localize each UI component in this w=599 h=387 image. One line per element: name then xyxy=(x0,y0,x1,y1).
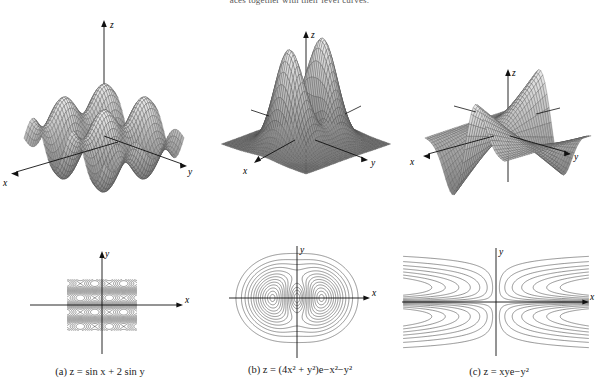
surface-plot-c: z x y xyxy=(398,30,599,200)
axis-label-y-a: y xyxy=(187,167,193,177)
axis-label-x-a: x xyxy=(2,178,8,188)
surface-plot-a: z x y xyxy=(0,18,200,200)
axis-label-x-b: x xyxy=(242,166,248,176)
axis-label-x-c-contour: x xyxy=(589,292,595,302)
axis-label-z-c: z xyxy=(511,68,516,78)
axis-label-y-c-contour: y xyxy=(498,247,504,257)
axis-label-x-a-contour: x xyxy=(184,295,190,305)
axis-label-x-c: x xyxy=(409,157,415,167)
caption-a: (a) z = sin x + 2 sin y xyxy=(0,366,200,377)
figure-heading: aces together with their level curves. xyxy=(0,0,599,5)
axis-label-y-b-contour: y xyxy=(299,245,305,255)
axis-label-y-c: y xyxy=(573,152,579,162)
contour-plot-a: x y xyxy=(22,248,194,358)
caption-b: (b) z = (4x² + y²)e−x²−y² xyxy=(200,364,400,375)
axis-label-y-a-contour: y xyxy=(104,249,110,259)
axis-label-z-a: z xyxy=(109,20,114,30)
caption-c: (c) z = xye−y² xyxy=(399,366,599,377)
axis-label-x-b-contour: x xyxy=(371,288,377,298)
contour-plot-b: x y xyxy=(215,244,393,360)
contour-plot-c: x y xyxy=(398,246,596,358)
axis-x-a-contour xyxy=(30,302,183,307)
axis-x-c-contour xyxy=(402,299,589,304)
axis-label-z-b: z xyxy=(310,30,315,40)
surface-plot-b: z x y xyxy=(203,22,399,200)
axis-label-y-b: y xyxy=(370,158,376,168)
surface-mesh-a xyxy=(24,84,184,192)
